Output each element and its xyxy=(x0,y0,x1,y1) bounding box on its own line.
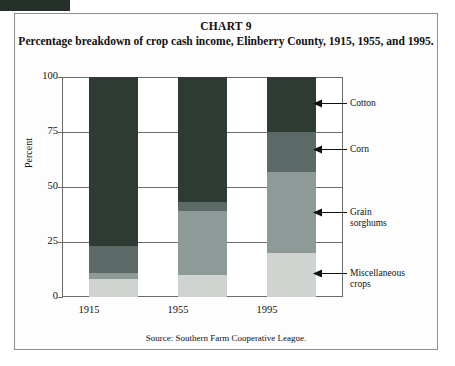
bar-1955[interactable] xyxy=(178,77,227,297)
callout-grain-sorghums: Grain sorghums xyxy=(313,207,387,229)
page-title: Percentage breakdown of crop cash income… xyxy=(15,34,437,49)
callout-miscellaneous-crops: Miscellaneous crops xyxy=(313,268,405,290)
y-tick-50: 50 xyxy=(12,180,58,191)
segment-grain-sorghums[interactable] xyxy=(178,211,227,275)
segment-cotton[interactable] xyxy=(89,77,138,246)
callout-label-cotton: Cotton xyxy=(350,98,376,109)
x-tick-1995: 1995 xyxy=(227,304,307,315)
callout-label-misc: Miscellaneous crops xyxy=(350,268,405,290)
arrow-left-icon xyxy=(313,145,347,154)
segment-miscellaneous-crops[interactable] xyxy=(89,279,138,297)
y-tick-100: 100 xyxy=(12,70,58,81)
y-tick-75: 75 xyxy=(12,125,58,136)
chart-number: CHART 9 xyxy=(15,19,437,33)
title-block: CHART 9 Percentage breakdown of crop cas… xyxy=(15,19,437,49)
callout-label-grain-sorghums: Corn xyxy=(350,144,369,155)
segment-corn[interactable] xyxy=(89,246,138,272)
segment-grain-sorghums[interactable] xyxy=(89,273,138,280)
callout-label-grain: Grain sorghums xyxy=(350,207,387,229)
callout-corn: Corn xyxy=(313,144,369,155)
plot-area-wrapper xyxy=(62,77,343,297)
callout-cotton: Cotton xyxy=(313,98,376,109)
segment-cotton[interactable] xyxy=(178,77,227,202)
y-axis-ticks: 100 75 50 25 0 xyxy=(8,77,58,297)
scan-artifact xyxy=(0,0,70,11)
x-tick-1955: 1955 xyxy=(138,304,218,315)
bar-1915[interactable] xyxy=(89,77,138,297)
segment-grain-sorghums[interactable] xyxy=(267,172,316,253)
segment-miscellaneous-crops[interactable] xyxy=(267,253,316,297)
arrow-left-icon xyxy=(313,99,347,108)
segment-miscellaneous-crops[interactable] xyxy=(178,275,227,297)
segment-corn[interactable] xyxy=(267,132,316,172)
arrow-left-icon xyxy=(313,269,347,278)
arrow-left-icon xyxy=(313,208,347,217)
bar-1995[interactable] xyxy=(267,77,316,297)
x-tick-1915: 1915 xyxy=(49,304,129,315)
y-tick-25: 25 xyxy=(12,235,58,246)
source-note: Source: Southern Farm Cooperative League… xyxy=(15,333,437,343)
segment-corn[interactable] xyxy=(178,202,227,211)
segment-cotton[interactable] xyxy=(267,77,316,132)
y-tick-0: 0 xyxy=(12,290,58,301)
